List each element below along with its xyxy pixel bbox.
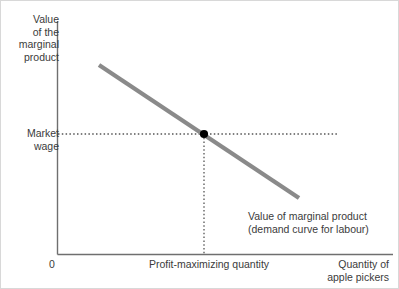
value-of-marginal-product-curve xyxy=(99,65,299,198)
market-wage-tick-label: Market wage xyxy=(0,127,59,152)
y-axis-label: Value of the marginal product xyxy=(0,13,59,63)
chart-plot-area xyxy=(1,1,399,289)
curve-annotation-label: Value of marginal product (demand curve … xyxy=(248,210,398,235)
chart-figure: Value of the marginal product Market wag… xyxy=(0,0,399,289)
x-axis-label: Quantity of apple pickers xyxy=(239,258,389,283)
equilibrium-point xyxy=(200,130,208,138)
origin-label: 0 xyxy=(49,258,55,271)
